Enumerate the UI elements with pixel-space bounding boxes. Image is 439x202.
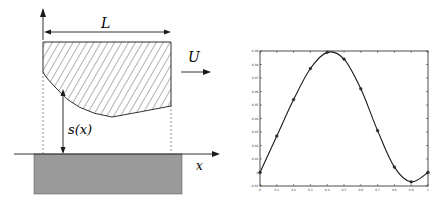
ground-block bbox=[34, 154, 182, 194]
y-tick-label: 0.08 bbox=[252, 63, 259, 67]
y-tick-label: 0 bbox=[257, 171, 259, 175]
x-tick-label: 0.7 bbox=[375, 188, 380, 192]
x-tick-label: 0.1 bbox=[274, 188, 279, 192]
x-tick-label: 0.5 bbox=[342, 188, 347, 192]
y-tick-label: 0.02 bbox=[252, 144, 259, 148]
y-tick-label: -0.01 bbox=[251, 184, 259, 188]
velocity-arrow-icon bbox=[203, 69, 211, 75]
length-arrow-left-icon bbox=[44, 30, 51, 35]
data-point-marker bbox=[326, 51, 329, 54]
x-tick-label: 0.8 bbox=[392, 188, 397, 192]
x-tick-label: 0.3 bbox=[308, 188, 313, 192]
data-point-marker bbox=[359, 87, 362, 90]
data-point-marker bbox=[376, 129, 379, 132]
slider-bearing-diagram: x L U s(x) bbox=[0, 0, 240, 202]
x-tick-label: 0.6 bbox=[358, 188, 363, 192]
y-tick-label: 0.03 bbox=[252, 130, 259, 134]
x-axis-label: x bbox=[196, 159, 203, 173]
data-point-marker bbox=[309, 67, 312, 70]
gap-label: s(x) bbox=[68, 122, 92, 137]
x-axis-arrow-icon bbox=[212, 151, 220, 157]
data-markers bbox=[259, 51, 430, 183]
data-point-marker bbox=[275, 135, 278, 138]
x-tick-label: 0.2 bbox=[291, 188, 296, 192]
x-tick-label: 1 bbox=[427, 188, 429, 192]
velocity-label: U bbox=[188, 49, 201, 65]
length-label: L bbox=[100, 15, 110, 31]
data-point-marker bbox=[259, 171, 262, 174]
x-tick-label: 0 bbox=[259, 188, 261, 192]
data-point-marker bbox=[292, 98, 295, 101]
gap-arrow-bottom-icon bbox=[61, 147, 66, 154]
length-arrow-right-icon bbox=[164, 30, 171, 35]
y-tick-label: 0.05 bbox=[252, 103, 259, 107]
y-tick-label: 0.06 bbox=[252, 90, 259, 94]
y-tick-label: 0.07 bbox=[252, 76, 259, 80]
y-tick-label: 0.09 bbox=[252, 49, 259, 53]
plot-ticks: 00.10.20.30.40.50.60.70.80.91-0.0100.010… bbox=[251, 49, 429, 192]
data-point-marker bbox=[343, 58, 346, 61]
data-point-marker bbox=[427, 171, 430, 174]
x-tick-label: 0.4 bbox=[325, 188, 330, 192]
slider-pad bbox=[43, 42, 171, 117]
vertical-axis-arrow-icon bbox=[40, 8, 46, 17]
y-tick-label: 0.01 bbox=[252, 157, 259, 161]
data-point-marker bbox=[393, 166, 396, 169]
data-series-line bbox=[260, 52, 428, 182]
plot-frame bbox=[260, 51, 428, 186]
data-point-marker bbox=[410, 181, 413, 184]
x-tick-label: 0.9 bbox=[409, 188, 414, 192]
y-tick-label: 0.04 bbox=[252, 117, 259, 121]
